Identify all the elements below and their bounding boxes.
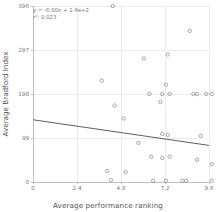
data-point — [161, 132, 164, 135]
data-point — [113, 104, 116, 107]
y-tick-label: 0 — [7, 179, 29, 186]
data-point — [142, 57, 145, 60]
data-point — [210, 92, 213, 95]
data-point — [166, 53, 169, 56]
data-point — [159, 100, 162, 103]
data-point — [199, 134, 202, 137]
data-point — [210, 179, 213, 182]
x-tick-label: 2.4 — [65, 185, 89, 192]
data-point — [124, 171, 127, 174]
gridlines — [33, 6, 209, 182]
y-axis-title: Average Bradford Index — [1, 14, 11, 174]
data-point — [106, 169, 109, 172]
fit-equation-text: y = -6.00x + 1.4e+2 — [33, 7, 89, 14]
data-point — [195, 158, 198, 161]
x-tick-label: 0 — [21, 185, 45, 192]
plot-canvas — [0, 0, 216, 212]
r-squared-text: r²: 0.023 — [33, 14, 89, 21]
data-points — [100, 4, 213, 182]
x-tick-label: 4.8 — [109, 185, 133, 192]
data-point — [210, 163, 213, 166]
fit-annotation: y = -6.00x + 1.4e+2 r²: 0.023 — [33, 7, 89, 22]
data-point — [168, 155, 171, 158]
data-point — [150, 155, 153, 158]
x-tick-label: 9.6 — [197, 185, 216, 192]
data-point — [100, 79, 103, 82]
data-point — [188, 29, 191, 32]
y-tick-label: 396 — [7, 3, 29, 10]
data-point — [109, 179, 112, 182]
axis-lines — [31, 6, 209, 184]
data-point — [166, 133, 169, 136]
data-point — [137, 141, 140, 144]
x-axis-title: Average performance ranking — [0, 201, 216, 210]
y-axis-title-wrap: Average Bradford Index — [1, 14, 11, 174]
scatter-chart-figure: y = -6.00x + 1.4e+2 r²: 0.023 02.44.87.2… — [0, 0, 216, 212]
x-tick-label: 7.2 — [153, 185, 177, 192]
data-point — [161, 156, 164, 159]
data-point — [122, 117, 125, 120]
